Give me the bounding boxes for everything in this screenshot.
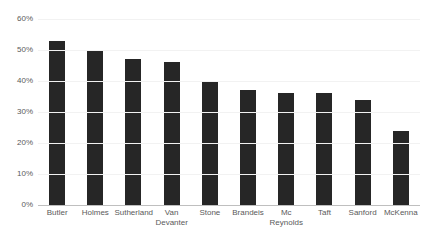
x-axis-tick-label: McKenna [382,208,420,228]
gridline [38,174,420,175]
bar[interactable] [87,50,103,205]
x-axis-tick-label: Taft [305,208,343,228]
bar[interactable] [355,100,371,205]
bar[interactable] [49,41,65,205]
x-axis-tick-label: Sutherland [114,208,152,228]
x-axis-labels: ButlerHolmesSutherlandVan DevanterStoneB… [38,208,420,228]
x-axis-tick-label: Butler [38,208,76,228]
y-axis-tick-label: 30% [0,108,33,116]
y-axis-tick-label: 40% [0,77,33,85]
x-axis-tick-label: Stone [191,208,229,228]
bar[interactable] [278,93,294,205]
x-axis-tick-label: Sanford [344,208,382,228]
plot-area: 0%10%20%30%40%50%60% [38,19,420,205]
bar[interactable] [240,90,256,205]
axis-baseline [38,205,420,206]
y-axis-tick-label: 10% [0,170,33,178]
gridline [38,81,420,82]
gridline [38,19,420,20]
x-axis-tick-label: Holmes [76,208,114,228]
gridline [38,50,420,51]
y-axis-tick-label: 50% [0,46,33,54]
bar[interactable] [164,62,180,205]
bar-chart: 0%10%20%30%40%50%60% ButlerHolmesSutherl… [0,0,432,244]
y-axis-tick-label: 0% [0,201,33,209]
bar[interactable] [316,93,332,205]
bar[interactable] [393,131,409,205]
y-axis-tick-label: 20% [0,139,33,147]
gridline [38,143,420,144]
y-axis-tick-label: 60% [0,15,33,23]
x-axis-tick-label: Brandeis [229,208,267,228]
gridline [38,112,420,113]
x-axis-tick-label: Mc Reynolds [267,208,305,228]
x-axis-tick-label: Van Devanter [153,208,191,228]
